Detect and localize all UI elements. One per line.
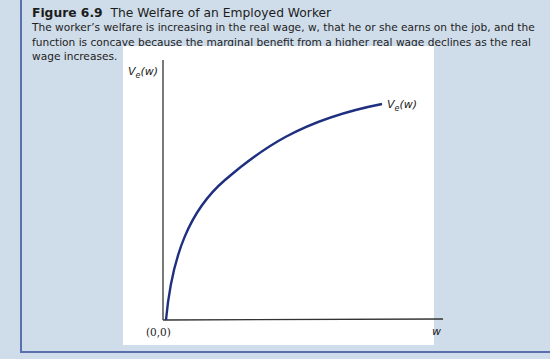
x-axis bbox=[163, 319, 443, 320]
y-axis-label: Ve(w) bbox=[128, 65, 158, 80]
origin-label: (0,0) bbox=[146, 326, 171, 338]
x-axis-label: w bbox=[432, 325, 441, 338]
curve-label: Ve(w) bbox=[387, 98, 417, 113]
welfare-curve bbox=[166, 104, 382, 320]
